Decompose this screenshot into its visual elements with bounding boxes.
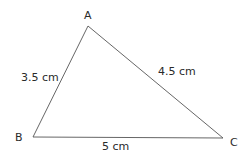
side-label-ab: 3.5 cm — [21, 72, 59, 83]
triangle-abc — [33, 26, 223, 138]
side-label-bc: 5 cm — [102, 141, 129, 152]
vertex-label-c: C — [230, 137, 238, 148]
vertex-label-b: B — [15, 132, 23, 143]
vertex-label-a: A — [84, 10, 92, 21]
side-label-ac: 4.5 cm — [158, 66, 196, 77]
